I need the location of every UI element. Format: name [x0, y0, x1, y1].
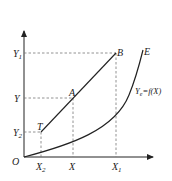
curve-equation-label: Ye=f(X) [135, 86, 162, 97]
x2-label: X2 [35, 161, 46, 174]
point-e-label: E [143, 46, 150, 57]
origin-label: O [12, 156, 19, 167]
x1-label: X1 [111, 161, 122, 174]
x-label: X [68, 161, 76, 172]
operating-line-diagram: O Y1 Y Y2 X2 X X1 T A B E Ye=f(X) [0, 0, 172, 181]
y2-label: Y2 [13, 127, 23, 140]
operating-line-tb [41, 53, 116, 132]
point-a-label: A [68, 87, 76, 98]
point-b-label: B [117, 47, 123, 58]
dashed-guides [24, 53, 116, 157]
equilibrium-curve [24, 50, 143, 157]
y-label: Y [14, 93, 21, 104]
y1-label: Y1 [13, 48, 22, 61]
